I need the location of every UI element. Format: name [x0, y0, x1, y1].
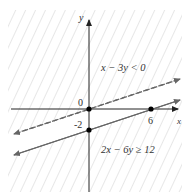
- y-axis-label: y: [78, 12, 84, 23]
- origin-point: [86, 106, 91, 111]
- tick-label-neg2: -2: [74, 119, 82, 130]
- x-intercept-point: [148, 106, 153, 111]
- inequality-label-top: x − 3y < 0: [100, 62, 146, 73]
- inequality-graph: y x 0 6 -2 x − 3y < 0 2x − 6y ≥ 12: [0, 0, 192, 196]
- origin-label: 0: [78, 97, 83, 108]
- inequality-label-bottom: 2x − 6y ≥ 12: [101, 144, 155, 155]
- tick-label-6: 6: [148, 115, 153, 126]
- x-axis-label: x: [176, 116, 181, 126]
- y-intercept-point: [86, 127, 91, 132]
